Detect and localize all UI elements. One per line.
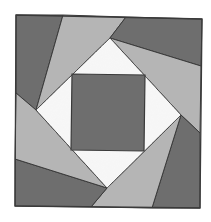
quilt-block-diagram xyxy=(0,0,211,222)
center-square xyxy=(71,74,145,151)
